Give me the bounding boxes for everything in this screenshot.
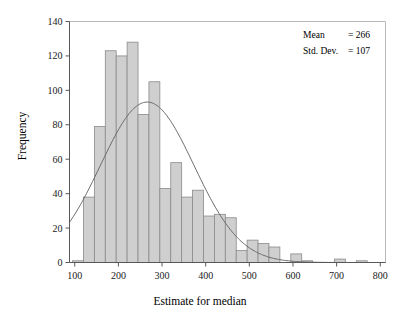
histogram-bar (193, 190, 204, 262)
histogram-bar (116, 56, 127, 263)
histogram-bar (236, 250, 247, 262)
histogram-bar (203, 216, 214, 262)
histogram-bar (138, 114, 149, 262)
y-axis-tick-label: 20 (53, 223, 63, 234)
x-axis-tick-label: 400 (198, 270, 213, 281)
histogram-bar (105, 51, 116, 263)
histogram-bar (83, 197, 94, 262)
histogram-bar (149, 82, 160, 263)
histogram-bar (160, 188, 171, 262)
histogram-chart: 1002003004005006007008000204060801001201… (0, 0, 400, 321)
x-axis-tick-label: 500 (242, 270, 257, 281)
histogram-bar (258, 244, 269, 263)
x-axis-tick-label: 100 (67, 270, 82, 281)
x-axis-tick-label: 200 (111, 270, 126, 281)
x-axis-tick-label: 300 (155, 270, 170, 281)
histogram-bar (127, 42, 138, 262)
histogram-bar (247, 240, 258, 262)
histogram-bar (269, 247, 280, 262)
y-axis-tick-label: 60 (53, 154, 63, 165)
chart-canvas: 1002003004005006007008000204060801001201… (0, 0, 400, 321)
x-axis-tick-label: 700 (329, 270, 344, 281)
y-axis-tick-label: 120 (48, 50, 63, 61)
y-axis-tick-label: 100 (48, 85, 63, 96)
histogram-bar (182, 197, 193, 262)
y-axis-tick-label: 40 (53, 188, 63, 199)
y-axis-tick-label: 0 (58, 257, 63, 268)
histogram-bar (214, 214, 225, 262)
histogram-bar (94, 127, 105, 263)
x-axis-tick-label: 800 (373, 270, 388, 281)
y-axis-tick-label: 80 (53, 119, 63, 130)
y-axis-tick-label: 140 (48, 16, 63, 27)
x-axis-tick-label: 600 (285, 270, 300, 281)
histogram-bar (171, 163, 182, 263)
